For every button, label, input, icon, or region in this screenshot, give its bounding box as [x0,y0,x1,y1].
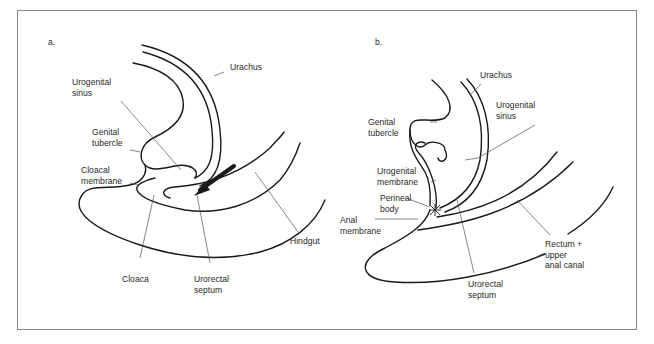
label-urogenital-sinus-a: Urogenital sinus [72,77,111,98]
label-urorectal-septum-b: Urorectal septum [468,279,503,300]
panel-a-letter: a. [48,37,55,47]
label-hindgut-a: Hindgut [290,236,320,247]
label-perineal-body-b: Perineal body [380,193,412,214]
perineal-body-icon [429,204,441,216]
label-urachus-a: Urachus [230,62,262,73]
panel-b-letter: b. [375,37,382,47]
label-genital-tubercle-a: Genital tubercle [92,127,123,148]
label-cloacal-membrane-a: Cloacal membrane [81,165,122,186]
label-anal-membrane-b: Anal membrane [340,215,381,236]
label-rectum-upper-anal-canal-b: Rectum + upper anal canal [545,239,584,271]
label-urogenital-membrane-b: Urogenital membrane [377,166,418,187]
label-cloaca-a: Cloaca [122,274,149,285]
label-urogenital-sinus-b: Urogenital sinus [496,100,535,121]
label-urorectal-septum-a: Urorectal septum [194,274,229,295]
panel-a-drawing [79,45,325,258]
label-genital-tubercle-b: Genital tubercle [368,117,399,138]
label-urachus-b: Urachus [480,70,512,81]
